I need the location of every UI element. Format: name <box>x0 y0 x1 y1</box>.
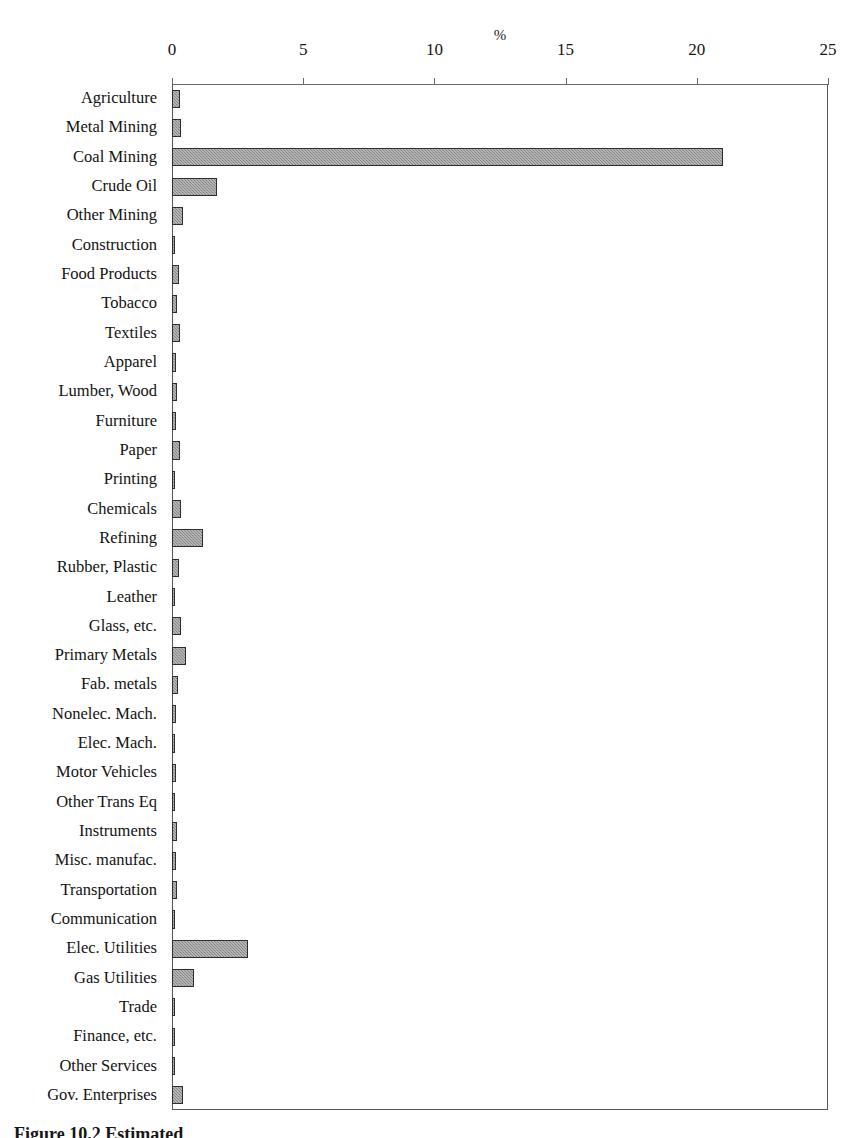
y-category-label-30: Gas Utilities <box>74 970 157 987</box>
bar-4 <box>172 207 183 225</box>
y-category-label-33: Other Services <box>59 1058 157 1075</box>
bar-25 <box>172 822 177 840</box>
y-category-label-25: Instruments <box>79 823 157 840</box>
bar-21 <box>172 705 176 723</box>
y-category-label-12: Paper <box>119 442 157 459</box>
bar-14 <box>172 500 181 518</box>
y-category-label-6: Food Products <box>61 266 157 283</box>
y-category-label-23: Motor Vehicles <box>56 764 157 781</box>
x-tick-mark-25 <box>828 78 829 85</box>
y-category-label-9: Apparel <box>104 354 157 371</box>
bar-series <box>172 84 828 1110</box>
bar-11 <box>172 412 176 430</box>
bar-8 <box>172 324 180 342</box>
bar-13 <box>172 471 175 489</box>
bar-10 <box>172 383 177 401</box>
bar-33 <box>172 1057 175 1075</box>
y-category-label-26: Misc. manufac. <box>55 852 157 869</box>
y-category-label-4: Other Mining <box>67 207 157 224</box>
x-tick-label-10: 10 <box>426 40 443 60</box>
bar-12 <box>172 441 180 459</box>
bar-24 <box>172 793 175 811</box>
bar-34 <box>172 1086 183 1104</box>
bar-20 <box>172 676 178 694</box>
y-category-label-14: Chemicals <box>87 501 157 518</box>
y-category-label-21: Nonelec. Mach. <box>52 706 157 723</box>
bar-1 <box>172 119 181 137</box>
bar-30 <box>172 969 194 987</box>
y-category-label-13: Printing <box>104 471 157 488</box>
bar-3 <box>172 178 217 196</box>
bar-28 <box>172 910 175 928</box>
y-category-label-10: Lumber, Wood <box>58 383 157 400</box>
bar-2 <box>172 148 723 166</box>
y-category-label-17: Leather <box>107 589 157 606</box>
bar-9 <box>172 353 176 371</box>
bar-16 <box>172 559 179 577</box>
bar-5 <box>172 236 175 254</box>
bar-17 <box>172 588 175 606</box>
y-category-label-22: Elec. Mach. <box>78 735 157 752</box>
bar-32 <box>172 1028 175 1046</box>
y-category-label-1: Metal Mining <box>66 119 157 136</box>
bar-23 <box>172 764 176 782</box>
y-category-label-28: Communication <box>51 911 157 928</box>
y-category-label-7: Tobacco <box>101 295 157 312</box>
y-category-label-2: Coal Mining <box>73 149 157 166</box>
y-category-label-31: Trade <box>119 999 157 1016</box>
bar-26 <box>172 852 176 870</box>
bar-22 <box>172 734 175 752</box>
y-category-label-29: Elec. Utilities <box>66 940 157 957</box>
x-axis-tick-labels: 0510152025 <box>0 40 856 66</box>
y-category-label-27: Transportation <box>60 882 157 899</box>
y-category-label-20: Fab. metals <box>81 676 157 693</box>
figure-caption: Figure 10.2 Estimated <box>14 1124 714 1138</box>
y-category-label-32: Finance, etc. <box>73 1028 157 1045</box>
bar-7 <box>172 295 177 313</box>
y-category-label-34: Gov. Enterprises <box>47 1087 157 1104</box>
y-category-label-11: Furniture <box>96 413 157 430</box>
x-tick-label-15: 15 <box>557 40 574 60</box>
y-category-label-5: Construction <box>72 237 157 254</box>
chart-figure: % 0510152025 AgricultureMetal MiningCoal… <box>0 0 856 1138</box>
bar-19 <box>172 647 186 665</box>
x-tick-label-20: 20 <box>688 40 705 60</box>
y-category-label-24: Other Trans Eq <box>56 794 157 811</box>
bar-29 <box>172 940 248 958</box>
y-category-label-0: Agriculture <box>81 90 157 107</box>
bar-15 <box>172 529 203 547</box>
bar-6 <box>172 265 179 283</box>
bar-0 <box>172 90 180 108</box>
bar-27 <box>172 881 177 899</box>
y-category-label-16: Rubber, Plastic <box>57 559 157 576</box>
y-category-label-15: Refining <box>99 530 157 547</box>
x-tick-label-0: 0 <box>168 40 177 60</box>
y-category-label-19: Primary Metals <box>55 647 157 664</box>
y-category-label-18: Glass, etc. <box>89 618 157 635</box>
x-tick-label-25: 25 <box>820 40 837 60</box>
y-category-label-8: Textiles <box>105 325 157 342</box>
bar-18 <box>172 617 181 635</box>
x-tick-label-5: 5 <box>299 40 308 60</box>
y-category-label-3: Crude Oil <box>91 178 157 195</box>
bar-31 <box>172 998 175 1016</box>
y-axis-category-labels: AgricultureMetal MiningCoal MiningCrude … <box>0 84 160 1110</box>
